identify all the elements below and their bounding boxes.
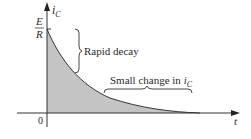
decay-diagram: iC E R 0 t Rapid decay Small change in i…: [0, 0, 251, 139]
x-axis-label: t: [234, 115, 238, 127]
y-axis-arrow-icon: [44, 2, 50, 11]
y-axis-label: iC: [52, 3, 61, 19]
initial-value-denominator: R: [35, 28, 43, 40]
rapid-decay-brace-icon: [75, 29, 82, 73]
small-change-label: Small change in iC: [110, 74, 193, 89]
initial-value-numerator: E: [35, 15, 43, 27]
area-under-curve: [47, 29, 200, 113]
rapid-decay-label: Rapid decay: [84, 45, 139, 57]
small-change-brace-icon: [104, 86, 192, 93]
origin-label: 0: [38, 115, 43, 126]
